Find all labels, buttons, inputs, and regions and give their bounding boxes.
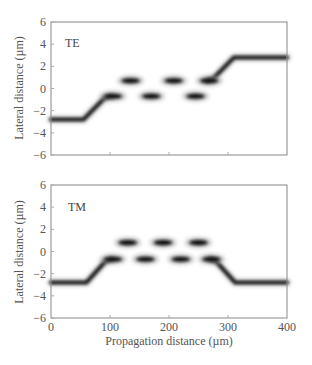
y-tick-label: −2 bbox=[33, 267, 46, 281]
beam-spot bbox=[172, 257, 190, 262]
y-tick-label: 4 bbox=[40, 37, 46, 51]
beam-spot bbox=[136, 257, 154, 262]
beam-spot bbox=[187, 94, 205, 99]
beam-spot bbox=[119, 240, 137, 245]
x-tick-label: 0 bbox=[48, 320, 54, 334]
beam-spot bbox=[104, 94, 122, 99]
top-y-axis-label: Lateral distance (µm) bbox=[12, 36, 26, 140]
beam-spot bbox=[200, 78, 218, 83]
y-tick-label: 0 bbox=[40, 82, 46, 96]
plot-frame bbox=[51, 22, 287, 155]
bottom-y-axis-label: Lateral distance (µm) bbox=[12, 200, 26, 304]
x-tick-label: 300 bbox=[219, 320, 237, 334]
beam-trace-halo bbox=[207, 58, 287, 81]
x-tick-label: 200 bbox=[160, 320, 178, 334]
beam-spot bbox=[122, 78, 140, 83]
y-tick-label: −2 bbox=[33, 104, 46, 118]
y-tick-label: −6 bbox=[33, 311, 46, 325]
chart-figure: 6420−2−4−6 6420−2−4−60100200300400 TE TM… bbox=[0, 0, 312, 365]
x-tick-label: 100 bbox=[101, 320, 119, 334]
y-tick-label: −6 bbox=[33, 148, 46, 162]
bottom-panel-label: TM bbox=[68, 200, 86, 214]
top-panel-label: TE bbox=[65, 36, 80, 50]
x-tick-label: 400 bbox=[278, 320, 296, 334]
beam-spot bbox=[154, 240, 172, 245]
beam-spot bbox=[202, 257, 220, 262]
y-tick-label: 2 bbox=[40, 222, 46, 236]
beam-spot bbox=[104, 257, 122, 262]
y-tick-label: 2 bbox=[40, 59, 46, 73]
plot-frame bbox=[51, 185, 287, 318]
beam-spot bbox=[165, 78, 183, 83]
y-tick-label: −4 bbox=[33, 126, 46, 140]
y-tick-label: 4 bbox=[40, 200, 46, 214]
beam-spot bbox=[142, 94, 160, 99]
x-axis-label: Propagation distance (µm) bbox=[105, 334, 233, 348]
beam-trace-halo bbox=[210, 259, 287, 282]
beam-spot bbox=[190, 240, 208, 245]
y-tick-label: 6 bbox=[40, 178, 46, 192]
y-tick-label: −4 bbox=[33, 289, 46, 303]
y-tick-label: 6 bbox=[40, 15, 46, 29]
y-tick-label: 0 bbox=[40, 245, 46, 259]
